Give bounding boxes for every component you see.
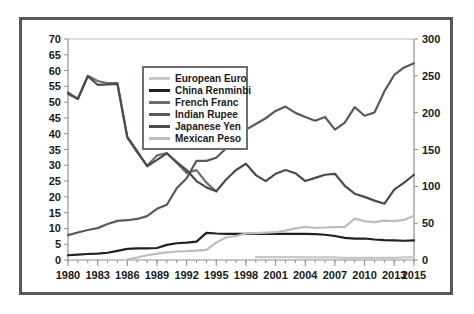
x-axis-tick-label: 1995 xyxy=(204,269,228,281)
y-axis-tick-label: 50 xyxy=(49,96,61,108)
legend-swatch-french-franc xyxy=(149,101,170,104)
y-axis-tick-label: 30 xyxy=(49,159,61,171)
chart-frame: 0510152025303540455055606570050100150200… xyxy=(19,17,453,295)
y2-axis-tick-label: 150 xyxy=(422,144,440,156)
x-axis-tick-label: 2001 xyxy=(263,269,287,281)
series-line-mexican-peso xyxy=(127,216,414,260)
y2-axis-tick-label: 200 xyxy=(422,107,440,119)
y-axis-tick-label: 25 xyxy=(49,175,61,187)
legend-label-french-franc: French Franc xyxy=(175,97,238,108)
legend-item-indian-rupee: Indian Rupee xyxy=(149,108,241,120)
y-axis-tick-label: 10 xyxy=(49,222,61,234)
x-axis-tick-label: 1986 xyxy=(115,269,139,281)
y2-axis-tick-label: 300 xyxy=(422,33,440,45)
x-axis-tick-label: 1983 xyxy=(85,269,109,281)
line-chart: 0510152025303540455055606570050100150200… xyxy=(22,20,456,298)
legend-swatch-indian-rupee xyxy=(149,113,170,116)
legend-item-japanese-yen: Japanese Yen xyxy=(149,120,241,132)
legend-item-china-renminbi: China Renminbi xyxy=(149,84,241,96)
y-axis-tick-label: 35 xyxy=(49,144,61,156)
legend-item-french-franc: French Franc xyxy=(149,96,241,108)
y-axis-tick-label: 70 xyxy=(49,33,61,45)
x-axis-tick-label: 1992 xyxy=(174,269,198,281)
x-axis-tick-label: 2010 xyxy=(352,269,376,281)
legend-swatch-european-euro xyxy=(149,77,170,80)
y2-axis-tick-label: 100 xyxy=(422,180,440,192)
y-axis-tick-label: 15 xyxy=(49,207,61,219)
x-axis-tick-label: 2015 xyxy=(402,269,426,281)
legend-swatch-mexican-peso xyxy=(149,137,170,140)
x-axis-tick-label: 1989 xyxy=(145,269,169,281)
legend-label-european-euro: European Euro xyxy=(175,73,247,84)
x-axis-tick-label: 1998 xyxy=(234,269,258,281)
y-axis-tick-label: 55 xyxy=(49,80,61,92)
y-axis-tick-label: 0 xyxy=(55,254,61,266)
legend-swatch-china-renminbi xyxy=(149,89,170,92)
y-axis-tick-label: 20 xyxy=(49,191,61,203)
legend-label-mexican-peso: Mexican Peso xyxy=(175,133,241,144)
legend-label-japanese-yen: Japanese Yen xyxy=(175,121,241,132)
y-axis-tick-label: 65 xyxy=(49,49,61,61)
series-line-european-euro xyxy=(256,257,414,258)
y-axis-tick-label: 40 xyxy=(49,128,61,140)
y-axis-tick-label: 60 xyxy=(49,65,61,77)
y2-axis-tick-label: 50 xyxy=(422,217,434,229)
chart-plot-area: 0510152025303540455055606570050100150200… xyxy=(22,20,456,298)
legend-item-mexican-peso: Mexican Peso xyxy=(149,132,241,144)
x-axis-tick-label: 2004 xyxy=(293,269,318,281)
x-axis-tick-label: 1980 xyxy=(56,269,80,281)
legend-item-european-euro: European Euro xyxy=(149,72,241,84)
legend-swatch-japanese-yen xyxy=(149,125,170,128)
y2-axis-tick-label: 0 xyxy=(422,254,428,266)
series-line-china-renminbi xyxy=(68,233,414,255)
chart-legend: European Euro China Renminbi French Fran… xyxy=(142,66,248,150)
x-axis-tick-label: 2007 xyxy=(323,269,347,281)
y-axis-tick-label: 5 xyxy=(55,238,61,250)
y2-axis-tick-label: 250 xyxy=(422,70,440,82)
legend-label-indian-rupee: Indian Rupee xyxy=(175,109,238,120)
legend-label-china-renminbi: China Renminbi xyxy=(175,85,251,96)
y-axis-tick-label: 45 xyxy=(49,112,61,124)
